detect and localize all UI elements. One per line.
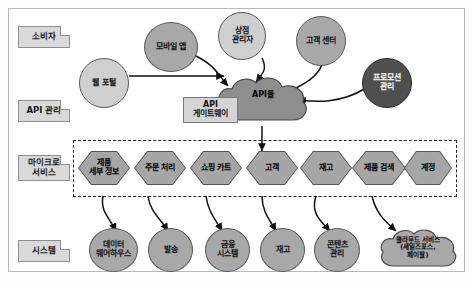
node-customer-center[interactable]: 고객 센터 (296, 16, 346, 66)
lane-consumer-label: 소비자 (32, 32, 56, 42)
lane-api-management-label: API 관리 (27, 106, 62, 116)
note-fold-icon (60, 100, 70, 110)
node-promotion-management[interactable]: 프로모션 관리 (362, 58, 412, 108)
node-account[interactable]: 계정 (404, 151, 452, 185)
node-shipping[interactable]: 발송 (148, 228, 193, 272)
node-customer-label: 고객 (247, 152, 297, 184)
node-customer-center-label: 고객 센터 (306, 37, 337, 46)
node-promotion-management-label: 프로모션 관리 (373, 74, 401, 92)
node-order-processing[interactable]: 주문 처리 (134, 151, 186, 185)
node-finance-system[interactable]: 금융 시스템 (205, 228, 250, 272)
node-data-warehouse[interactable]: 데이터 웨어하우스 (89, 228, 138, 272)
node-inventory-system-label: 재고 (276, 246, 290, 255)
node-shopping-cart-label: 쇼핑 카트 (191, 152, 241, 184)
lane-microservices: 마이크로 서비스 (18, 155, 70, 181)
node-product-search[interactable]: 제품 검색 (352, 151, 406, 185)
node-account-label: 계정 (405, 152, 451, 184)
node-product-details[interactable]: 제품 세부 정보 (78, 151, 130, 185)
lane-systems-label: 시스템 (32, 246, 56, 256)
node-content-management-label: 콘텐츠 관리 (327, 241, 348, 259)
lane-api-management: API 관리 (18, 100, 70, 122)
node-inventory[interactable]: 재고 (300, 151, 352, 185)
node-customer[interactable]: 고객 (246, 151, 298, 185)
node-order-processing-label: 주문 처리 (135, 152, 185, 184)
node-inventory-label: 재고 (301, 152, 351, 184)
node-api-gateway-label: API 게이트웨이 (193, 101, 228, 119)
node-shopping-cart[interactable]: 쇼핑 카트 (190, 151, 242, 185)
node-finance-system-label: 금융 시스템 (217, 241, 238, 259)
node-store-manager-label: 상점 관리자 (232, 27, 253, 45)
node-shipping-label: 발송 (164, 246, 178, 255)
node-inventory-system[interactable]: 재고 (260, 228, 305, 272)
node-content-management[interactable]: 콘텐츠 관리 (314, 228, 360, 272)
node-web-portal[interactable]: 웹 포털 (79, 58, 129, 108)
node-product-search-label: 제품 검색 (353, 152, 405, 184)
node-data-warehouse-label: 데이터 웨어하우스 (96, 241, 131, 259)
note-fold-icon (60, 240, 70, 250)
diagram-canvas: API들 소비자 API 관리 마이크로 서비스 시스템 웹 포털 모바일 앱 … (0, 0, 472, 288)
lane-microservices-label: 마이크로 서비스 (28, 158, 60, 177)
note-fold-icon (60, 155, 70, 165)
node-mobile-app[interactable]: 모바일 앱 (144, 22, 198, 72)
node-store-manager[interactable]: 상점 관리자 (218, 12, 266, 60)
node-cloud-services-label: 클라우드 서비스 (세일즈포스, 페이팔) (380, 233, 456, 263)
lane-systems: 시스템 (18, 240, 70, 262)
node-mobile-app-label: 모바일 앱 (156, 43, 187, 52)
node-api-gateway[interactable]: API 게이트웨이 (183, 97, 238, 123)
node-web-portal-label: 웹 포털 (92, 79, 116, 88)
node-product-details-label: 제품 세부 정보 (79, 152, 129, 184)
lane-consumer: 소비자 (18, 26, 70, 48)
note-fold-icon (60, 26, 70, 36)
